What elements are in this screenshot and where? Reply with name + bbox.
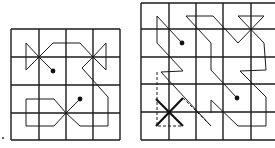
grid-puzzles-figure [0, 0, 275, 148]
left-start-dot [51, 69, 56, 74]
left-grid-puzzle [2, 29, 120, 140]
corner-mark [2, 137, 4, 139]
right-grid-puzzle [141, 3, 275, 140]
right-start-dot [180, 41, 185, 46]
right-end-dot [235, 96, 240, 101]
left-end-dot [78, 97, 83, 102]
